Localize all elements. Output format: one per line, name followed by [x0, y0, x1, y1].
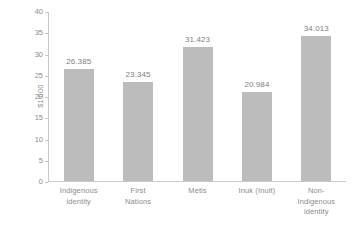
y-tick-label: 25 — [23, 72, 43, 80]
x-axis-label: Non-Indigenousidentity — [287, 186, 346, 218]
bar[interactable] — [242, 92, 272, 181]
y-tick-mark — [45, 118, 48, 119]
y-tick-label: 5 — [23, 157, 43, 165]
bar-series: 26.38523.34531.42320.98434.013 — [49, 12, 346, 181]
bar[interactable] — [64, 69, 94, 181]
bar-group: 34.013 — [287, 12, 346, 181]
bar-group: 23.345 — [108, 12, 167, 181]
y-tick-mark — [45, 76, 48, 77]
bar[interactable] — [301, 36, 331, 181]
y-tick-label: 40 — [23, 8, 43, 16]
x-axis-line — [48, 181, 346, 182]
y-tick-mark — [45, 12, 48, 13]
bar-value-label: 31.423 — [185, 35, 210, 44]
bar-group: 26.385 — [49, 12, 108, 181]
x-axis-label-line: Métis — [169, 186, 226, 197]
bar-chart: $1'000 0510152025303540 26.38523.34531.4… — [0, 0, 355, 231]
bar-value-label: 23.345 — [126, 70, 151, 79]
bar-value-label: 26.385 — [66, 57, 91, 66]
x-axis-label-line: Indigenous — [50, 186, 107, 197]
x-axis-labels: IndigenousidentityFirstNationsMétisInuk … — [49, 186, 346, 218]
y-tick-label: 10 — [23, 136, 43, 144]
bar-group: 31.423 — [168, 12, 227, 181]
x-axis-label-line: Nations — [109, 197, 166, 208]
y-tick-label: 35 — [23, 30, 43, 38]
y-tick-label: 15 — [23, 115, 43, 123]
x-axis-label-line: Inuk (Inuit) — [228, 186, 285, 197]
x-axis-label-line: Indigenous — [288, 197, 345, 208]
y-tick-mark — [45, 182, 48, 183]
x-axis-label-line: identity — [50, 197, 107, 208]
x-axis-label: FirstNations — [108, 186, 167, 207]
y-tick-mark — [45, 97, 48, 98]
x-axis-label-line: First — [109, 186, 166, 197]
y-tick-mark — [45, 140, 48, 141]
bar[interactable] — [123, 82, 153, 181]
y-tick-label: 0 — [23, 178, 43, 186]
x-axis-label: Inuk (Inuit) — [227, 186, 286, 197]
y-tick-label: 30 — [23, 51, 43, 59]
x-axis-label: Indigenousidentity — [49, 186, 108, 207]
y-tick-label: 20 — [23, 93, 43, 101]
plot-area: 0510152025303540 26.38523.34531.42320.98… — [48, 12, 346, 182]
y-tick-mark — [45, 161, 48, 162]
y-tick-mark — [45, 33, 48, 34]
x-axis-label-line: identity — [288, 207, 345, 218]
x-axis-label-line: Non- — [288, 186, 345, 197]
y-tick-mark — [45, 55, 48, 56]
x-axis-label: Métis — [168, 186, 227, 197]
bar-value-label: 34.013 — [304, 24, 329, 33]
bar-value-label: 20.984 — [244, 80, 269, 89]
bar-group: 20.984 — [227, 12, 286, 181]
bar[interactable] — [183, 47, 213, 181]
